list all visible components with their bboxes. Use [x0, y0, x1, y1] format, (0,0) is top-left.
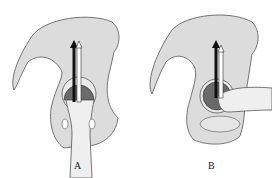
light-arrow-b	[219, 50, 223, 98]
panel-a: A	[0, 0, 136, 178]
hip-diagram-b	[136, 0, 272, 178]
light-arrow-a	[77, 46, 81, 102]
panel-label-a: A	[74, 160, 81, 171]
panel-label-b: B	[208, 160, 215, 171]
panel-b: B	[136, 0, 272, 178]
hip-diagram-a	[0, 0, 136, 178]
